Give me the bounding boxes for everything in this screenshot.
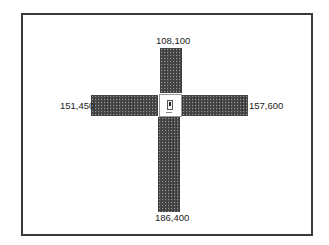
east-volume-label: 157,600	[249, 101, 283, 111]
signal-marker-icon	[167, 100, 173, 110]
north-volume-label: 108,100	[156, 36, 190, 46]
south-volume-label: 186,400	[155, 213, 189, 223]
north-approach-bar	[160, 48, 182, 93]
west-volume-label: 151,450	[60, 101, 94, 111]
south-approach-bar	[158, 117, 180, 212]
east-approach-bar	[182, 95, 248, 116]
west-approach-bar	[91, 95, 158, 116]
signal-base-line	[166, 112, 172, 113]
